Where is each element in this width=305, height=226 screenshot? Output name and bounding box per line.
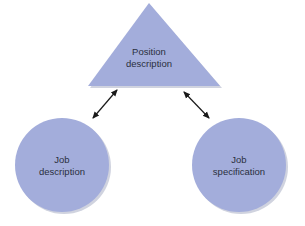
label-line: specification bbox=[194, 166, 284, 178]
label-job-specification: Job specification bbox=[194, 154, 284, 178]
label-line: Job bbox=[194, 154, 284, 166]
label-job-description: Job description bbox=[17, 154, 107, 178]
arrow-top-left bbox=[93, 90, 117, 118]
label-line: description bbox=[17, 166, 107, 178]
diagram-canvas bbox=[0, 0, 305, 226]
label-line: description bbox=[104, 58, 194, 70]
label-line: Job bbox=[17, 154, 107, 166]
label-position-description: Position description bbox=[104, 46, 194, 70]
arrow-top-right bbox=[184, 92, 209, 118]
label-line: Position bbox=[104, 46, 194, 58]
